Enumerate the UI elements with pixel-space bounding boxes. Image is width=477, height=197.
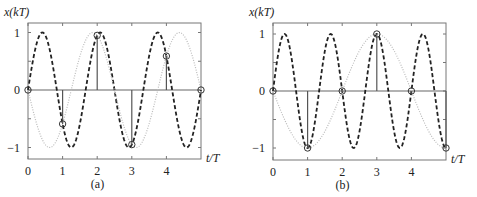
y-tick-label: 0	[259, 84, 265, 98]
y-axis-label: x(kT)	[3, 5, 29, 19]
x-tick-label: 1	[305, 165, 311, 179]
y-tick-label: 1	[259, 27, 265, 41]
y-tick-label: 0	[14, 83, 20, 97]
y-tick-label: −1	[7, 141, 20, 155]
y-axis-label: x(kT)	[248, 5, 274, 19]
panel-b: 01234−101x(kT)t/T(b)	[248, 5, 466, 192]
panel-label: (a)	[91, 177, 104, 191]
x-tick-label: 0	[270, 165, 276, 179]
x-axis-label: t/T	[206, 151, 221, 165]
y-tick-label: 1	[14, 26, 20, 40]
x-tick-label: 4	[163, 164, 169, 178]
x-tick-label: 2	[339, 165, 345, 179]
panel-a: 01234−101x(kT)t/T(a)	[3, 5, 221, 191]
y-tick-label: −1	[252, 141, 265, 155]
x-tick-label: 1	[60, 164, 66, 178]
x-tick-label: 2	[94, 164, 100, 178]
x-tick-label: 3	[374, 165, 380, 179]
aliasing-figure: 01234−101x(kT)t/T(a) 01234−101x(kT)t/T(b…	[0, 0, 477, 197]
x-tick-label: 3	[129, 164, 135, 178]
x-tick-label: 4	[408, 165, 414, 179]
panel-label: (b)	[336, 178, 350, 192]
x-axis-label: t/T	[451, 152, 466, 166]
x-tick-label: 0	[25, 164, 31, 178]
